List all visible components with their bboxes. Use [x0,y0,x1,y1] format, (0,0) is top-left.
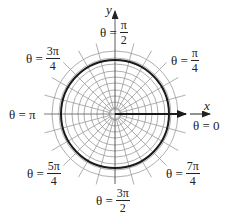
y-axis-label: y [106,3,112,16]
fraction: 3π 4 [46,45,60,72]
label-text: θ = 0 [193,119,220,132]
label-text: θ = π [9,108,36,121]
label-lhs: θ = [171,54,188,67]
grid-spoke [118,62,167,111]
fraction-denominator: 4 [50,59,56,72]
label-lhs: θ = [27,167,44,180]
x-axis-label: x [204,99,210,112]
label-lhs: θ = [96,194,113,207]
label-theta-3pi-over-2: θ = 3π 2 [96,187,130,214]
label-theta-3pi-over-4: θ = 3π 4 [26,45,60,72]
fraction: 3π 2 [116,187,130,214]
label-theta-pi-over-4: θ = π 4 [171,47,199,74]
fraction-numerator: π [191,47,199,61]
fraction-numerator: π [120,19,128,33]
grid-spoke [118,117,167,166]
grid-spoke [63,62,112,111]
label-lhs: θ = [26,52,43,65]
grid-spoke [63,117,112,166]
label-theta-7pi-over-4: θ = 7π 4 [166,160,200,187]
fraction-numerator: 3π [46,45,60,59]
label-theta-5pi-over-4: θ = 5π 4 [27,160,61,187]
fraction-denominator: 2 [120,201,126,214]
fraction-denominator: 4 [192,61,198,74]
fraction-numerator: 5π [47,160,61,174]
fraction: π 2 [120,19,128,46]
fraction: 7π 4 [186,160,200,187]
fraction: 5π 4 [47,160,61,187]
fraction-numerator: 7π [186,160,200,174]
fraction-numerator: 3π [116,187,130,201]
label-theta-0: θ = 0 [193,119,220,132]
label-lhs: θ = [166,167,183,180]
polar-diagram: y x θ = π 2 θ = 3π 4 θ = π 4 θ = π θ = 0… [0,0,231,221]
label-lhs: θ = [100,26,117,39]
label-theta-pi-over-2: θ = π 2 [100,19,128,46]
fraction-denominator: 4 [51,174,57,187]
fraction: π 4 [191,47,199,74]
label-theta-pi: θ = π [9,108,36,121]
fraction-denominator: 4 [190,174,196,187]
fraction-denominator: 2 [121,33,127,46]
